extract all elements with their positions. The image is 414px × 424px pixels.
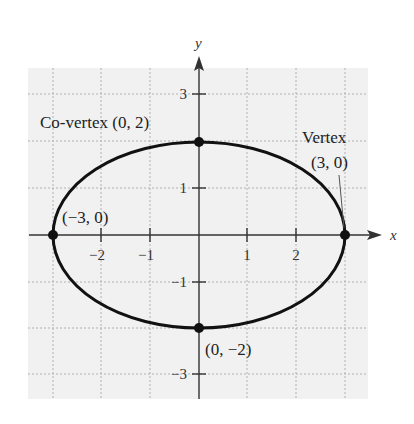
label-bottom-covertex: (0, −2) (205, 340, 251, 359)
tick-y-1: 1 (180, 180, 188, 196)
tick-x-minus2: −2 (89, 247, 105, 263)
label-vertex-title: Vertex (302, 128, 347, 147)
point-covertex-bottom (194, 323, 204, 333)
tick-x-1: 1 (243, 247, 251, 263)
point-vertex-right (340, 230, 350, 240)
label-vertex-coords: (3, 0) (311, 153, 348, 172)
label-left-vertex: (−3, 0) (62, 208, 108, 227)
tick-x-2: 2 (292, 247, 300, 263)
tick-y-3: 3 (180, 86, 188, 102)
y-axis-label: y (193, 35, 202, 51)
ellipse-chart: −2 −1 1 2 3 1 −1 −3 x y Co-vertex (0, 2)… (0, 0, 414, 424)
label-covertex: Co-vertex (0, 2) (40, 113, 149, 132)
tick-y-minus1: −1 (171, 274, 187, 290)
tick-x-minus1: −1 (138, 247, 154, 263)
point-covertex-top (194, 137, 204, 147)
tick-y-minus3: −3 (171, 366, 187, 382)
x-axis-label: x (389, 227, 397, 243)
point-vertex-left (48, 230, 58, 240)
